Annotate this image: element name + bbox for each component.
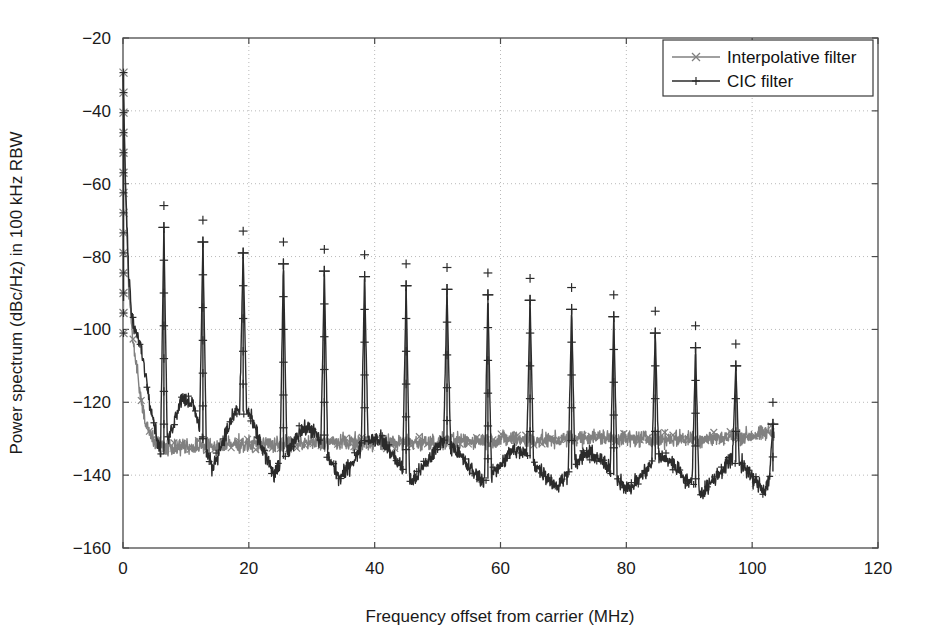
x-tick-label: 80 [617, 559, 636, 578]
y-tick-label: −60 [82, 175, 111, 194]
legend-label: CIC filter [727, 72, 793, 91]
y-tick-label: −40 [82, 102, 111, 121]
x-tick-label: 0 [118, 559, 127, 578]
x-tick-label: 100 [738, 559, 766, 578]
x-tick-label: 20 [239, 559, 258, 578]
legend-label: Interpolative filter [727, 48, 857, 67]
y-tick-label: −80 [82, 248, 111, 267]
figure-container: 020406080100120 −20−40−60−80−100−120−140… [0, 0, 928, 643]
x-tick-label: 40 [365, 559, 384, 578]
y-tick-label: −100 [73, 320, 111, 339]
chart-legend: Interpolative filterCIC filter [663, 40, 873, 96]
y-tick-label: −120 [73, 393, 111, 412]
y-axis-title: Power spectrum (dBc/Hz) in 100 kHz RBW [7, 131, 26, 454]
power-spectrum-chart: 020406080100120 −20−40−60−80−100−120−140… [0, 0, 928, 643]
x-tick-label: 60 [491, 559, 510, 578]
y-tick-label: −160 [73, 539, 111, 558]
x-axis-title: Frequency offset from carrier (MHz) [366, 607, 635, 626]
x-tick-label: 120 [864, 559, 892, 578]
y-tick-label: −20 [82, 29, 111, 48]
y-tick-label: −140 [73, 466, 111, 485]
